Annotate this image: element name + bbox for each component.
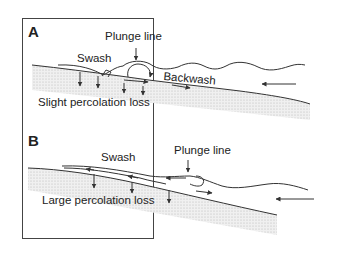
panel-a-percolation-label: Slight percolation loss xyxy=(38,97,150,109)
panel-a-plunge-line-label: Plunge line xyxy=(105,31,162,43)
panel-b-percolation-label: Large percolation loss xyxy=(42,195,155,207)
panel-a xyxy=(32,48,310,120)
panel-a-letter: A xyxy=(28,24,39,39)
figure-drawing xyxy=(0,0,339,257)
panel-b-swash-label: Swash xyxy=(101,152,136,164)
panel-b-plunge-line-label: Plunge line xyxy=(174,145,231,157)
panel-a-plunging-curl xyxy=(128,64,151,77)
panel-a-swash-label: Swash xyxy=(77,53,112,65)
backwash-arrow-b xyxy=(196,191,212,193)
panel-b-letter: B xyxy=(28,133,39,148)
